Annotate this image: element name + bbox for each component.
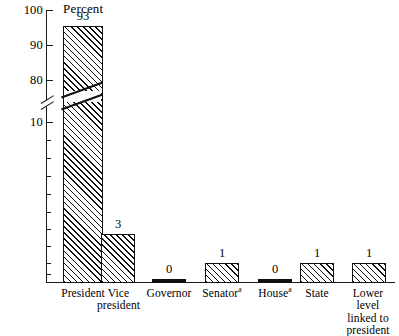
x-label-senator-footnote: a [238, 285, 241, 294]
x-label-vice-president-line2: president [90, 299, 147, 311]
y-minor-tick-6 [46, 194, 51, 195]
y-minor-tick-7 [46, 176, 51, 177]
bar-group-state: 1 [300, 263, 334, 283]
bar-value-state: 1 [314, 247, 320, 260]
y-tick-label-80-wrap: 80 [0, 74, 43, 87]
bar-value-president: 93 [77, 10, 90, 23]
x-label-senator-text: Senator [202, 287, 238, 299]
bar-value-lower-level: 1 [366, 247, 372, 260]
y-tick-label-90-wrap: 90 [0, 39, 43, 52]
bar-group-president: 93 [63, 26, 103, 283]
x-label-lower-level: Lower level linked to president [337, 287, 399, 336]
y-minor-tick-9 [46, 140, 51, 141]
y-tick-label-100: 100 [1, 4, 43, 17]
bar-value-governor: 0 [166, 263, 172, 276]
y-tick-10 [46, 122, 53, 123]
y-tick-label-10-wrap: 10 [0, 116, 43, 129]
bar-group-vice-president: 3 [101, 234, 135, 283]
y-axis-break-mark [40, 95, 55, 111]
y-axis-line [46, 10, 47, 283]
bar-lower-level[interactable] [352, 263, 386, 283]
x-label-house-text: House [258, 287, 288, 299]
y-minor-tick-4 [46, 229, 51, 230]
y-minor-tick-2 [46, 263, 51, 264]
y-minor-tick-3 [46, 246, 51, 247]
y-tick-label-80: 80 [1, 74, 43, 87]
bar-senator[interactable] [205, 263, 239, 283]
bar-value-vice-president: 3 [115, 218, 121, 231]
bar-vice-president[interactable] [101, 234, 135, 283]
bar-state[interactable] [300, 263, 334, 283]
y-minor-tick-1 [46, 274, 51, 275]
y-tick-80 [46, 80, 53, 81]
bar-group-lower-level: 1 [352, 263, 386, 283]
x-label-lower-level-line3: linked to [337, 312, 399, 324]
y-tick-label-10: 10 [1, 116, 43, 129]
x-label-lower-level-line4: president [337, 324, 399, 336]
bar-governor[interactable] [152, 279, 186, 283]
bar-group-senator: 1 [205, 263, 239, 283]
x-label-lower-level-line1: Lower [337, 287, 399, 299]
y-tick-label-90: 90 [1, 39, 43, 52]
bar-group-house: 0 [258, 279, 292, 283]
bar-house[interactable] [258, 279, 292, 283]
y-tick-90 [46, 45, 53, 46]
y-tick-100 [46, 10, 53, 11]
bar-value-senator: 1 [219, 247, 225, 260]
bar-group-governor: 0 [152, 279, 186, 283]
bar-value-house: 0 [272, 263, 278, 276]
y-minor-tick-8 [46, 158, 51, 159]
x-label-lower-level-line2: level [337, 299, 399, 311]
bar-president[interactable] [63, 26, 103, 283]
y-minor-tick-5 [46, 212, 51, 213]
y-tick-label-100-wrap: 100 [0, 4, 43, 17]
bar-break-mark-president [62, 86, 104, 112]
